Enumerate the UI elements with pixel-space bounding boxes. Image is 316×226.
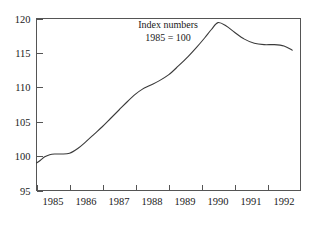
y-tick-label: 110 bbox=[15, 82, 30, 93]
x-tick-label: 1988 bbox=[142, 196, 163, 207]
y-tick-label: 100 bbox=[15, 151, 31, 162]
x-tick-label: 1986 bbox=[76, 196, 97, 207]
annotation-line-1: Index numbers bbox=[138, 19, 198, 30]
y-tick-label: 95 bbox=[20, 186, 31, 197]
x-tick-label: 1987 bbox=[109, 196, 130, 207]
x-tick-label: 1990 bbox=[208, 196, 229, 207]
y-tick-label: 120 bbox=[15, 14, 31, 25]
annotation-line-2: 1985 = 100 bbox=[145, 32, 191, 43]
line-chart: 95100105110115120 1985198619871988198919… bbox=[0, 0, 316, 226]
y-tick-label: 115 bbox=[15, 48, 30, 59]
x-tick-label: 1989 bbox=[175, 196, 196, 207]
x-tick-label: 1991 bbox=[241, 196, 262, 207]
chart-container: 95100105110115120 1985198619871988198919… bbox=[0, 0, 316, 226]
y-tick-label: 105 bbox=[15, 117, 31, 128]
x-tick-label: 1985 bbox=[43, 196, 64, 207]
x-tick-label: 1992 bbox=[274, 196, 295, 207]
